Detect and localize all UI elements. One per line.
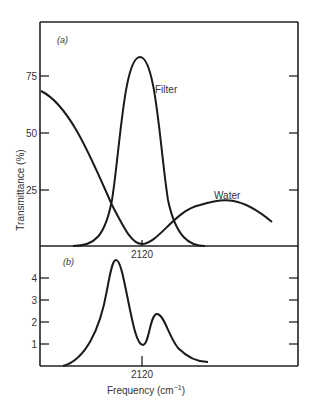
panel-a-tick-labels: 75 50 25 (26, 71, 38, 196)
y-tick-label: 1 (31, 339, 37, 350)
y-tick-label: 2 (31, 317, 37, 328)
panel-b-label: (b) (63, 257, 74, 267)
y-axis-label: Transmittance (%) (15, 149, 26, 230)
filter-curve (73, 57, 205, 246)
x-tick-label: 2120 (131, 369, 154, 380)
y-tick-label: 4 (31, 273, 37, 284)
figure: 75 50 25 2120 (a) Transmittance (%) Filt… (0, 0, 318, 407)
x-axis-label: Frequency (cm−1) (107, 384, 185, 396)
panel-b-tick-labels: 4 3 2 1 (31, 273, 37, 350)
product-curve (63, 260, 208, 366)
y-tick-label: 25 (26, 185, 38, 196)
panel-a-ticks (40, 76, 298, 246)
water-label: Water (214, 190, 241, 201)
y-tick-label: 75 (26, 71, 38, 82)
y-tick-label: 3 (31, 295, 37, 306)
y-tick-label: 50 (26, 128, 38, 139)
panel-a-frame (40, 22, 298, 366)
x-tick-label: 2120 (131, 249, 154, 260)
filter-label: Filter (155, 84, 178, 95)
x-axis-label-text: Frequency (cm (107, 385, 174, 396)
panel-b-ticks (40, 278, 298, 366)
panel-a-label: (a) (57, 35, 68, 45)
x-axis-label-close: ) (182, 385, 185, 396)
x-axis-label-sup: −1 (174, 384, 182, 391)
